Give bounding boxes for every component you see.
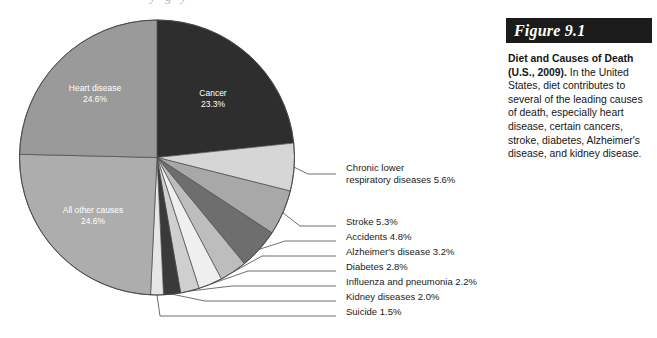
- callout-label: Suicide 1.5%: [346, 306, 401, 318]
- callout-label: Accidents 4.8%: [346, 231, 411, 243]
- callout-label: Kidney diseases 2.0%: [346, 291, 439, 303]
- figure-number-bar: Figure 9.1: [506, 18, 652, 43]
- callout-label: Diabetes 2.8%: [346, 261, 408, 273]
- callout-label: Influenza and pneumonia 2.2%: [346, 276, 477, 288]
- callout-leader-line: [283, 213, 336, 226]
- callout-label: Stroke 5.3%: [346, 216, 398, 228]
- callout-leader-line: [294, 167, 336, 174]
- figure-page: y g y Cancer23.3%Heart disease24.6%All o…: [0, 0, 657, 338]
- svg-text:24.6%: 24.6%: [83, 94, 108, 104]
- pie-chart: Cancer23.3%Heart disease24.6%All other c…: [0, 0, 500, 338]
- svg-text:24.6%: 24.6%: [81, 216, 106, 226]
- callout-leader-line: [190, 286, 336, 291]
- pie-slice-label: Cancer23.3%: [199, 88, 227, 109]
- callout-label: Alzheimer's disease 3.2%: [346, 246, 454, 258]
- svg-text:All other causes: All other causes: [63, 205, 123, 215]
- figure-caption-body: In the United States, diet contributes t…: [508, 67, 643, 160]
- figure-caption-box: Figure 9.1 Diet and Causes of Death (U.S…: [506, 18, 652, 161]
- svg-text:Cancer: Cancer: [199, 88, 227, 98]
- figure-number-label: Figure 9.1: [514, 22, 585, 40]
- callout-label-line2: respiratory diseases 5.6%: [346, 174, 455, 186]
- figure-caption-text: Diet and Causes of Death (U.S., 2009). I…: [506, 43, 652, 161]
- svg-text:23.3%: 23.3%: [201, 99, 226, 109]
- callout-leader-line: [172, 294, 336, 301]
- callout-leader-line: [157, 295, 336, 316]
- callout-label-line1: Chronic lower: [346, 162, 455, 174]
- callout-label: Chronic lowerrespiratory diseases 5.6%: [346, 162, 455, 185]
- callout-leader-line: [259, 241, 336, 249]
- svg-text:Heart disease: Heart disease: [69, 83, 122, 93]
